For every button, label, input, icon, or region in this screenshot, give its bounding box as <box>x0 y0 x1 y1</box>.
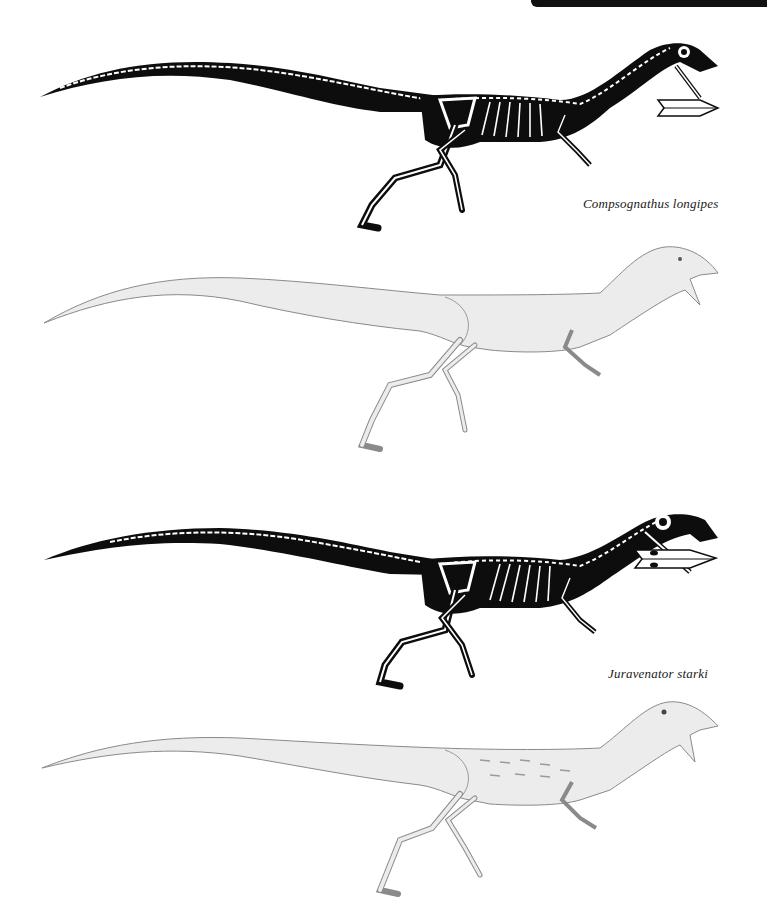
figure-compsognathus-skeleton: Compsognathus longipes <box>0 0 767 235</box>
figure-compsognathus-life <box>0 235 767 460</box>
caption-juravenator: Juravenator starki <box>608 666 708 682</box>
figure-juravenator-skeleton: Juravenator starki <box>0 460 767 690</box>
compsognathus-life-illustration <box>0 235 767 460</box>
juravenator-life-illustration <box>0 690 767 913</box>
caption-compsognathus: Compsognathus longipes <box>583 196 719 212</box>
figure-juravenator-life <box>0 690 767 913</box>
juravenator-skeleton-illustration <box>0 460 767 690</box>
